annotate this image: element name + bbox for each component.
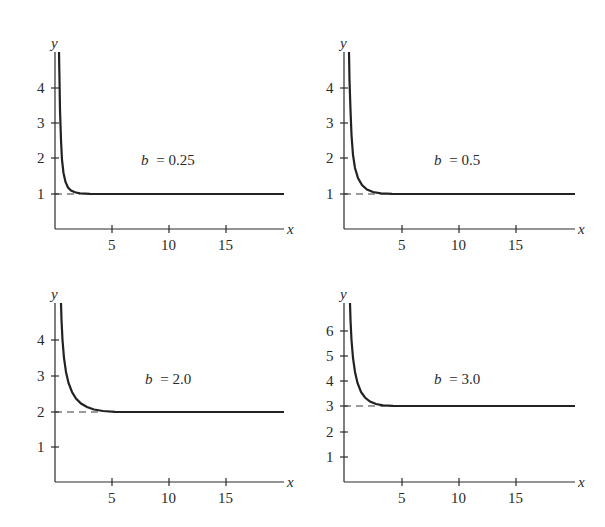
y-tick-label: 3 bbox=[326, 398, 334, 414]
panel-label: b = 0.25 bbox=[141, 152, 195, 168]
curve bbox=[350, 303, 575, 406]
x-tick-label: 15 bbox=[218, 490, 233, 506]
panel-label: b = 0.5 bbox=[434, 152, 480, 168]
y-tick-label: 2 bbox=[326, 424, 334, 440]
y-tick-label: 4 bbox=[37, 332, 45, 348]
x-tick-label: 5 bbox=[398, 490, 406, 506]
y-tick-label: 4 bbox=[326, 373, 334, 389]
x-axis-label: x bbox=[577, 221, 585, 237]
y-tick-label: 1 bbox=[37, 439, 45, 455]
y-tick-label: 2 bbox=[326, 150, 334, 166]
y-axis-label: y bbox=[49, 35, 58, 51]
y-tick-label: 1 bbox=[326, 449, 334, 465]
x-tick-label: 5 bbox=[108, 490, 116, 506]
panel-b-0.25: y x 4 3 2 1 5 10 15 b = 0.25 bbox=[37, 35, 294, 253]
curve bbox=[349, 52, 575, 194]
x-tick-label: 15 bbox=[508, 237, 523, 253]
y-tick-label: 2 bbox=[37, 150, 45, 166]
panel-label: b = 2.0 bbox=[145, 371, 191, 387]
y-tick-label: 4 bbox=[326, 80, 334, 96]
y-tick-label: 1 bbox=[37, 186, 45, 202]
x-tick-label: 10 bbox=[451, 490, 466, 506]
curve bbox=[61, 303, 284, 412]
y-tick-label: 1 bbox=[326, 186, 334, 202]
y-tick-label: 3 bbox=[326, 115, 334, 131]
y-tick-label: 4 bbox=[37, 80, 45, 96]
x-tick-label: 10 bbox=[451, 237, 466, 253]
x-tick-label: 10 bbox=[161, 237, 176, 253]
panel-b-0.5: y x 4 3 2 1 5 10 15 b = 0.5 bbox=[326, 35, 585, 253]
y-axis-label: y bbox=[49, 286, 58, 302]
panel-b-2.0: y x 4 3 2 1 5 10 15 b = 2.0 bbox=[37, 286, 294, 506]
x-tick-label: 15 bbox=[508, 490, 523, 506]
x-tick-label: 10 bbox=[161, 490, 176, 506]
x-tick-label: 5 bbox=[108, 237, 116, 253]
y-tick-label: 3 bbox=[37, 368, 45, 384]
y-tick-label: 5 bbox=[326, 348, 334, 364]
x-axis-label: x bbox=[577, 474, 585, 490]
panel-b-3.0: y x 6 5 4 3 2 1 5 10 15 b = 3.0 bbox=[326, 286, 585, 506]
x-tick-label: 15 bbox=[218, 237, 233, 253]
y-axis-label: y bbox=[338, 35, 347, 51]
y-tick-label: 2 bbox=[37, 404, 45, 420]
panel-label: b = 3.0 bbox=[434, 371, 480, 387]
y-tick-label: 3 bbox=[37, 115, 45, 131]
figure: y x 4 3 2 1 5 10 15 b = 0.25 y x bbox=[0, 0, 605, 527]
y-tick-label: 6 bbox=[326, 323, 334, 339]
y-axis-label: y bbox=[338, 286, 347, 302]
x-axis-label: x bbox=[286, 221, 294, 237]
x-axis-label: x bbox=[286, 474, 294, 490]
x-tick-label: 5 bbox=[398, 237, 406, 253]
curve bbox=[59, 52, 284, 194]
